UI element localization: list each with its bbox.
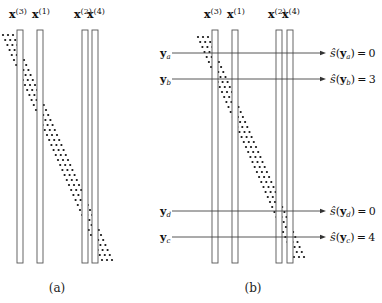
dot <box>62 159 64 161</box>
dot <box>25 64 27 66</box>
dot <box>239 121 241 123</box>
dot <box>270 191 272 193</box>
dot <box>268 176 270 178</box>
panel-a: x(3)x(1)x(2)x(4) (a) <box>2 7 113 295</box>
dot <box>34 84 36 86</box>
dot <box>296 241 298 243</box>
dot <box>303 256 305 258</box>
result-label: ŝ(yd) = 0 <box>330 205 376 219</box>
dot <box>104 244 106 246</box>
dot <box>269 201 271 203</box>
arrowhead-icon <box>320 77 326 81</box>
dot <box>99 254 101 256</box>
dot <box>73 184 75 186</box>
dot <box>243 141 245 143</box>
dot <box>75 199 77 201</box>
dot <box>2 34 4 36</box>
dot <box>258 176 260 178</box>
dot <box>199 41 201 43</box>
dot <box>32 79 34 81</box>
dot <box>99 244 101 246</box>
dot <box>33 94 35 96</box>
dot <box>209 41 211 43</box>
column-label: x(1) <box>227 7 245 21</box>
dot <box>248 141 250 143</box>
dot <box>80 199 82 201</box>
dot <box>206 46 208 48</box>
dot <box>225 101 227 103</box>
dot <box>202 36 204 38</box>
column-label: x(3) <box>204 7 222 21</box>
dot <box>24 84 26 86</box>
dot <box>14 39 16 41</box>
column-label: x(4) <box>282 7 300 21</box>
arrowhead-icon <box>320 209 326 213</box>
dot <box>261 161 263 163</box>
dot <box>249 156 251 158</box>
dot <box>48 139 50 141</box>
dot <box>29 84 31 86</box>
dot <box>75 189 77 191</box>
dot <box>30 74 32 76</box>
column-bars-b <box>212 30 293 263</box>
dot <box>74 174 76 176</box>
dot <box>247 151 249 153</box>
dot <box>71 179 73 181</box>
dot <box>204 41 206 43</box>
dot <box>46 134 48 136</box>
dot <box>53 139 55 141</box>
dot <box>58 139 60 141</box>
dot <box>255 146 257 148</box>
dot <box>197 36 199 38</box>
column-bar <box>82 30 88 263</box>
dot <box>52 124 54 126</box>
dot <box>51 134 53 136</box>
dot <box>262 186 264 188</box>
dot <box>257 151 259 153</box>
dot <box>9 49 11 51</box>
dot <box>250 146 252 148</box>
dot <box>248 131 250 133</box>
dot <box>44 119 46 121</box>
dot <box>60 144 62 146</box>
dot <box>63 149 65 151</box>
dot <box>222 71 224 73</box>
dot <box>272 186 274 188</box>
dot <box>64 174 66 176</box>
dot <box>9 39 11 41</box>
dot <box>25 74 27 76</box>
column-bar <box>37 30 43 263</box>
dot <box>102 249 104 251</box>
dot <box>259 156 261 158</box>
dot <box>77 194 79 196</box>
dot <box>59 164 61 166</box>
dot <box>45 109 47 111</box>
dot <box>206 56 208 58</box>
dot <box>264 166 266 168</box>
column-bar <box>212 30 218 263</box>
dot <box>64 164 66 166</box>
dot <box>220 66 222 68</box>
column-bar <box>92 30 98 263</box>
dot <box>11 44 13 46</box>
dot <box>230 111 232 113</box>
column-label: x(4) <box>87 7 105 21</box>
dot <box>246 126 248 128</box>
dot <box>65 154 67 156</box>
dot <box>241 136 243 138</box>
dot <box>14 49 16 51</box>
dot <box>267 186 269 188</box>
dot <box>109 254 111 256</box>
dot <box>227 106 229 108</box>
dot <box>259 166 261 168</box>
dot <box>76 179 78 181</box>
dot <box>47 114 49 116</box>
dot <box>261 171 263 173</box>
dot <box>299 246 301 248</box>
column-bar <box>17 30 23 263</box>
dot <box>242 116 244 118</box>
dot <box>57 159 59 161</box>
column-label: x(3) <box>9 7 27 21</box>
dot <box>243 131 245 133</box>
column-bar <box>287 30 293 263</box>
